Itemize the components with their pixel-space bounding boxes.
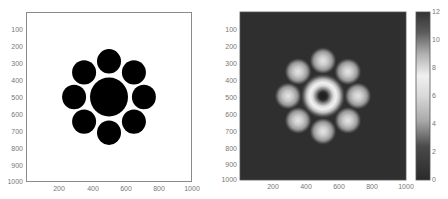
outer-disk <box>132 85 156 109</box>
outer-disk <box>122 109 146 133</box>
y-tick-label: 800 <box>1 145 23 152</box>
outer-disk <box>72 109 96 133</box>
x-tick-label: 1000 <box>180 185 204 192</box>
y-tick-label: 200 <box>1 43 23 50</box>
colorbar-tick-label: 2 <box>432 148 436 155</box>
x-tick-label: 400 <box>294 183 318 190</box>
outer-blob <box>284 58 312 86</box>
x-tick-label: 800 <box>147 185 171 192</box>
y-tick-label: 700 <box>1 128 23 135</box>
y-tick-label: 100 <box>1 26 23 33</box>
outer-blob <box>309 47 337 75</box>
left-plot: 100 200 300 400 500 600 700 800 900 1000… <box>0 0 224 199</box>
outer-disk <box>97 121 121 145</box>
outer-disk <box>72 60 96 84</box>
outer-blob <box>344 82 372 110</box>
x-tick-label: 200 <box>261 183 285 190</box>
x-tick-label: 400 <box>81 185 105 192</box>
y-tick-label: 900 <box>1 162 23 169</box>
outer-disk <box>97 49 121 73</box>
x-tick-label: 200 <box>47 185 71 192</box>
colorbar-tick-label: 0 <box>432 176 436 183</box>
center-ring <box>300 73 346 119</box>
y-tick-label: 600 <box>1 111 23 118</box>
y-tick-label: 500 <box>1 94 23 101</box>
outer-blob <box>334 58 362 86</box>
x-tick-label: 1000 <box>394 183 418 190</box>
colorbar-tick-label: 6 <box>432 92 436 99</box>
colorbar-tick-label: 10 <box>432 36 440 43</box>
outer-blob <box>284 106 312 134</box>
colorbar-tick-label: 4 <box>432 120 436 127</box>
outer-blob <box>334 106 362 134</box>
outer-disk <box>122 60 146 84</box>
x-tick-label: 800 <box>360 183 384 190</box>
y-tick-label: 400 <box>1 77 23 84</box>
heatmap-background <box>240 12 406 180</box>
x-tick-label: 600 <box>327 183 351 190</box>
center-disk <box>90 78 128 117</box>
outer-blob <box>274 82 302 110</box>
outer-blob <box>309 117 337 145</box>
colorbar-tick-label: 8 <box>432 64 436 71</box>
colorbar-tick-label: 12 <box>432 8 440 15</box>
colorbar <box>416 12 430 180</box>
y-tick-label: 300 <box>1 60 23 67</box>
outer-disk <box>62 85 86 109</box>
x-tick-label: 600 <box>114 185 138 192</box>
y-tick-label: 1000 <box>1 178 23 185</box>
left-plot-image <box>0 0 224 199</box>
